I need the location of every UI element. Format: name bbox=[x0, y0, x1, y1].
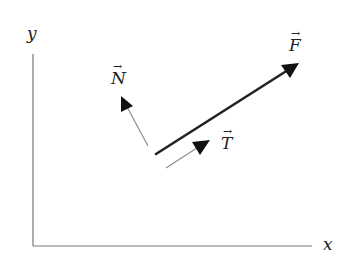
vector-f-label: → F bbox=[289, 37, 301, 54]
vector-arrow-accent-icon: → bbox=[291, 28, 300, 39]
force-diagram: y x → F → N → T bbox=[0, 0, 352, 273]
vector-t-arrowhead-icon bbox=[192, 140, 210, 155]
vector-arrow-accent-icon: → bbox=[113, 61, 122, 72]
vector-t-label: → T bbox=[221, 135, 232, 152]
vector-arrow-accent-icon: → bbox=[223, 126, 232, 137]
x-axis-label: x bbox=[323, 236, 333, 253]
vector-n-arrowhead-icon bbox=[121, 96, 133, 112]
vector-t-shaft bbox=[166, 146, 200, 168]
vector-n-shaft bbox=[126, 105, 148, 146]
vector-n-label: → N bbox=[111, 70, 126, 87]
y-axis-label: y bbox=[27, 25, 37, 42]
vector-f-arrowhead-icon bbox=[281, 63, 299, 78]
